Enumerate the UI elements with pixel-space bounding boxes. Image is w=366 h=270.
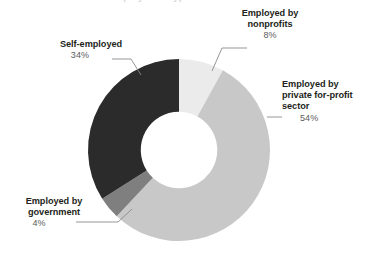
label-self-employed-name: Self-employed [60,39,122,49]
label-nonprofits-name: Employed by nonprofits [242,8,299,29]
label-private-sector-name: Employed by private for-profit sector [282,79,353,111]
label-government-percent: 4% [6,218,102,229]
label-self-employed-percent: 34% [42,50,140,61]
label-self-employed: Self-employed 34% [42,39,140,61]
label-private-sector-percent: 54% [282,113,364,124]
label-private-sector: Employed by private for-profit sector 54… [282,79,364,124]
label-nonprofits-percent: 8% [222,30,318,41]
label-nonprofits: Employed by nonprofits 8% [222,8,318,42]
segment-self-employed[interactable] [88,59,179,199]
donut-segments [88,59,270,241]
label-government: Employed by government 4% [6,196,102,230]
label-government-name: Employed by government [26,196,83,217]
donut-chart-figure: Employment type Employed by nonprofits 8… [0,0,366,270]
